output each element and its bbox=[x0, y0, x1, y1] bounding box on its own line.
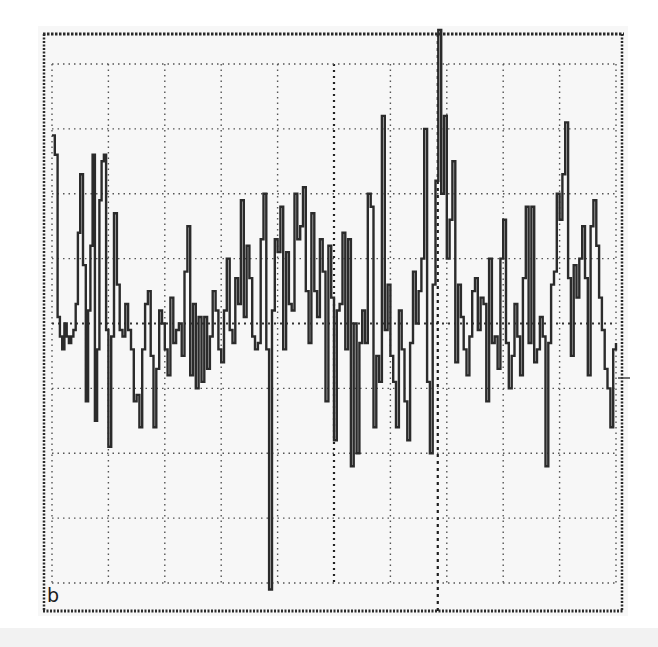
panel-label: b bbox=[47, 586, 59, 605]
scan-margin bbox=[0, 628, 658, 647]
oscilloscope-chart bbox=[0, 0, 658, 647]
